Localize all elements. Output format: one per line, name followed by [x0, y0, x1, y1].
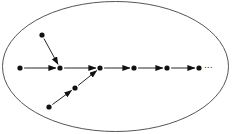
node-f [97, 65, 102, 70]
boundary-ellipse [3, 2, 229, 132]
node-d [46, 104, 51, 109]
edge-d-e [52, 90, 71, 104]
edge-b-c [44, 39, 58, 65]
node-c [57, 65, 62, 70]
node-i [196, 65, 201, 70]
node-h [164, 65, 169, 70]
node-e [72, 85, 77, 90]
node-b [39, 32, 44, 37]
node-g [131, 65, 136, 70]
node-a [17, 65, 22, 70]
nodes-group [17, 32, 201, 109]
edges-group [24, 39, 195, 105]
continuation-ellipsis: ... [204, 61, 213, 70]
diagram-canvas [0, 0, 232, 134]
edge-e-f [78, 71, 97, 86]
